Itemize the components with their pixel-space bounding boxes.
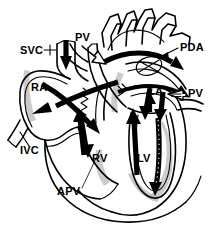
label-la: LA bbox=[148, 85, 163, 97]
label-apv: APV bbox=[57, 185, 81, 197]
label-ivc: IVC bbox=[20, 144, 39, 156]
label-pv-right: PV bbox=[188, 87, 204, 99]
flow-arrow-lv-cavity bbox=[156, 118, 159, 186]
label-lv: LV bbox=[137, 152, 151, 164]
label-svc: SVC bbox=[20, 44, 43, 56]
apv-vessel-outline bbox=[45, 140, 201, 222]
heart-diagram-figure: SVC PV PDA RA LA PV IVC RV LV APV bbox=[0, 0, 211, 226]
label-pv-upper: PV bbox=[75, 31, 91, 43]
heart-anatomy-drawing: SVC PV PDA RA LA PV IVC RV LV APV bbox=[0, 0, 211, 226]
label-ra: RA bbox=[31, 81, 47, 93]
aortic-arch-and-branch-vessels bbox=[102, 9, 190, 50]
flow-arrow-lv-outflow bbox=[134, 120, 137, 175]
label-rv: RV bbox=[92, 152, 108, 164]
label-pda: PDA bbox=[180, 41, 204, 53]
